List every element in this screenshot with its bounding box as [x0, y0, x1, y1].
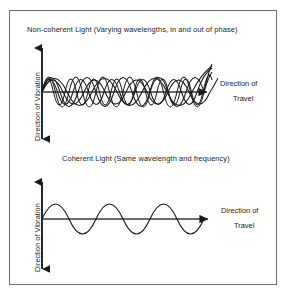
x-axis-label-coherent: Direction of Travel	[221, 203, 258, 233]
y-axis-label-coherent: Direction of Vibration	[33, 203, 42, 272]
caption-coherent: Coherent Light (Same wavelength and freq…	[62, 154, 230, 163]
x-axis-label-coherent-line1: Direction of	[221, 206, 258, 215]
caption-non-coherent: Non-coherent Light (Varying wavelengths,…	[27, 25, 238, 34]
x-axis-label-non-coherent-line1: Direction of	[220, 79, 257, 88]
figure-canvas: Non-coherent Light (Varying wavelengths,…	[0, 0, 289, 298]
x-axis-label-coherent-line2: Travel	[221, 218, 258, 233]
x-axis-label-non-coherent: Direction of Travel	[220, 76, 257, 106]
y-axis-label-non-coherent: Direction of Vibration	[33, 72, 42, 141]
wave-diagram-graphics	[0, 0, 289, 298]
panel-non-coherent	[42, 48, 218, 139]
panel-coherent	[42, 182, 208, 269]
x-axis-label-non-coherent-line2: Travel	[220, 91, 257, 106]
